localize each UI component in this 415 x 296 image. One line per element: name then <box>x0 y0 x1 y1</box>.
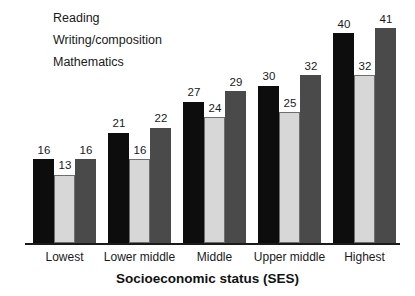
bar-value-label: 16 <box>128 145 152 157</box>
bar-group: 403241 <box>333 20 396 243</box>
chart-figure: Reading Writing/composition Mathematics … <box>0 0 415 296</box>
bar-slot: 22 <box>150 20 171 243</box>
bar-slot: 25 <box>279 20 300 243</box>
bar-value-label: 40 <box>332 19 356 31</box>
bar-value-label: 16 <box>74 145 98 157</box>
bar-value-label: 27 <box>182 87 206 99</box>
bar-group-bars: 161316 <box>33 20 96 243</box>
bar-value-label: 30 <box>257 71 281 83</box>
x-axis-line <box>25 243 400 245</box>
bar-slot: 29 <box>225 20 246 243</box>
bar-group-bars: 302532 <box>258 20 321 243</box>
bar-group: 272429 <box>183 20 246 243</box>
x-tick-label: Middle <box>197 250 232 264</box>
bar[interactable] <box>150 128 171 243</box>
bar[interactable] <box>54 175 75 243</box>
bar-group-bars: 211622 <box>108 20 171 243</box>
bar-slot: 13 <box>54 20 75 243</box>
x-tick-label: Lower middle <box>104 250 175 264</box>
bar[interactable] <box>75 159 96 243</box>
bar-value-label: 32 <box>353 61 377 73</box>
bar-slot: 41 <box>375 20 396 243</box>
bar-value-label: 24 <box>203 103 227 115</box>
bar[interactable] <box>375 28 396 243</box>
bar-group: 302532 <box>258 20 321 243</box>
bar-slot: 32 <box>300 20 321 243</box>
bar-value-label: 32 <box>299 61 323 73</box>
bar-value-label: 29 <box>224 77 248 89</box>
bar-slot: 24 <box>204 20 225 243</box>
bar[interactable] <box>279 112 300 243</box>
bar-slot: 40 <box>333 20 354 243</box>
bar-slot: 16 <box>75 20 96 243</box>
bar-group: 211622 <box>108 20 171 243</box>
x-axis-title: Socioeconomic status (SES) <box>0 271 415 286</box>
bar-value-label: 25 <box>278 98 302 110</box>
bar[interactable] <box>33 159 54 243</box>
bar-slot: 16 <box>129 20 150 243</box>
bar-value-label: 41 <box>374 14 398 26</box>
bar-group-bars: 272429 <box>183 20 246 243</box>
bar[interactable] <box>129 159 150 243</box>
x-tick-label: Upper middle <box>254 250 325 264</box>
bar-value-label: 22 <box>149 113 173 125</box>
plot-area: 161316211622272429302532403241 <box>25 20 400 243</box>
bar-group-bars: 403241 <box>333 20 396 243</box>
bar-value-label: 21 <box>107 118 131 130</box>
bar-group: 161316 <box>33 20 96 243</box>
x-tick-label: Lowest <box>45 250 83 264</box>
bar[interactable] <box>225 91 246 243</box>
bar[interactable] <box>108 133 129 243</box>
x-tick-label: Highest <box>344 250 385 264</box>
bar-slot: 27 <box>183 20 204 243</box>
bar[interactable] <box>300 75 321 243</box>
bar[interactable] <box>354 75 375 243</box>
bar-slot: 16 <box>33 20 54 243</box>
bar-slot: 30 <box>258 20 279 243</box>
bar[interactable] <box>183 102 204 243</box>
bar[interactable] <box>333 33 354 243</box>
bar-value-label: 13 <box>53 160 77 172</box>
bar-value-label: 16 <box>32 145 56 157</box>
bar-slot: 21 <box>108 20 129 243</box>
bar-slot: 32 <box>354 20 375 243</box>
bar[interactable] <box>204 117 225 243</box>
bar[interactable] <box>258 86 279 243</box>
